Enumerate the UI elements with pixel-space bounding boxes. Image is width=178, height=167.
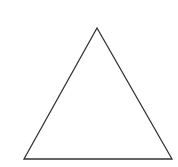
triangle-shape (24, 28, 172, 159)
diagram-canvas (0, 0, 178, 167)
triangle-diagram (0, 0, 178, 167)
